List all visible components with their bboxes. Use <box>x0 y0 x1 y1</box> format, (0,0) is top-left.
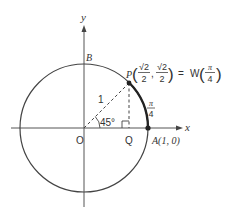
right-angle-marker <box>122 121 129 128</box>
arc-a-to-p <box>129 83 148 128</box>
unit-circle-diagram: y x B O Q A(1, 0) 1 45° π 4 P ( √2 2 , √… <box>0 0 230 218</box>
p-arg-numerator: π <box>208 63 213 72</box>
p-func-close-paren: ) <box>216 65 222 84</box>
point-q-label: Q <box>125 135 133 146</box>
y-axis-arrow-icon <box>82 25 87 32</box>
point-p <box>127 81 132 86</box>
p-y-numerator: √2 <box>157 62 167 72</box>
p-equals: = <box>178 68 184 79</box>
p-comma: , <box>151 68 154 79</box>
radius-label: 1 <box>98 94 104 105</box>
x-axis-arrow-icon <box>176 126 183 131</box>
point-a <box>145 125 150 130</box>
x-axis-label: x <box>184 121 190 133</box>
p-y-denominator: 2 <box>159 74 164 84</box>
p-func-open-paren: ( <box>199 65 205 84</box>
point-a-label: A(1, 0) <box>151 135 180 147</box>
p-close-paren: ) <box>168 65 174 84</box>
arc-label-denominator: 4 <box>148 109 153 119</box>
arc-label-numerator: π <box>149 99 154 108</box>
y-axis-label: y <box>80 11 86 23</box>
origin-label: O <box>76 135 84 146</box>
p-x-numerator: √2 <box>139 62 149 72</box>
angle-label: 45° <box>100 117 115 128</box>
point-b-label: B <box>86 52 92 63</box>
point-p-label: P ( √2 2 , √2 2 ) = W ( π 4 ) <box>125 62 222 84</box>
p-arg-denominator: 4 <box>207 74 212 84</box>
p-open-paren: ( <box>132 65 138 84</box>
p-x-denominator: 2 <box>141 74 146 84</box>
